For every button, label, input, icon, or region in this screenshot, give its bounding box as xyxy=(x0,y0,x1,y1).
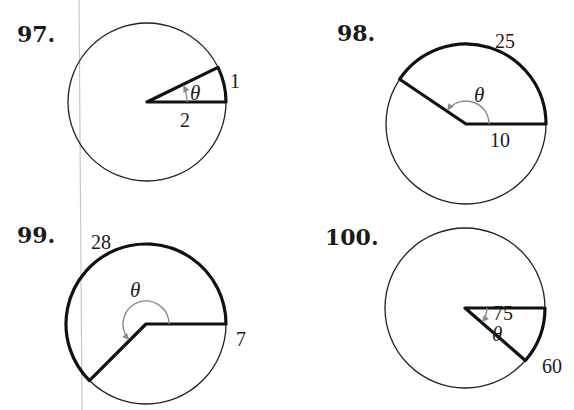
problem-99: 99. θ 7 28 xyxy=(17,222,246,404)
textbook-exercise-figure: 97. θ 2 1 98. θ 10 25 99. θ 7 28 100. θ … xyxy=(0,0,574,410)
angle-arc-arrow-icon xyxy=(123,301,169,338)
angle-theta-label: θ xyxy=(130,278,140,302)
problem-100: 100. θ 75 60 xyxy=(325,224,562,388)
radius-label: 10 xyxy=(490,129,510,151)
problem-number: 100. xyxy=(325,224,379,250)
problem-number: 99. xyxy=(17,222,55,248)
arc-length-label: 1 xyxy=(230,70,240,92)
radius-label: 75 xyxy=(493,302,513,324)
arc-length-label: 28 xyxy=(91,231,111,253)
problem-98: 98. θ 10 25 xyxy=(337,20,546,204)
arc-length-label: 25 xyxy=(495,30,515,52)
arrowhead-icon xyxy=(122,333,129,340)
radius-label: 7 xyxy=(236,328,246,350)
problem-number: 98. xyxy=(337,20,375,46)
sector-outline xyxy=(66,244,226,381)
angle-theta-label: θ xyxy=(474,83,484,107)
angle-theta-label: θ xyxy=(492,322,502,346)
problem-number: 97. xyxy=(17,21,55,47)
arc-length-label: 60 xyxy=(542,355,562,377)
angle-theta-label: θ xyxy=(190,81,200,105)
sector-outline xyxy=(400,44,546,124)
problem-97: 97. θ 2 1 xyxy=(17,21,240,181)
radius-label: 2 xyxy=(180,109,190,131)
